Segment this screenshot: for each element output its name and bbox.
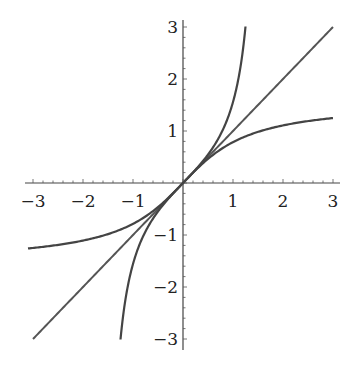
y-tick-label: −2 bbox=[153, 277, 178, 297]
x-tick-label: −2 bbox=[70, 191, 95, 211]
y-tick-label: −1 bbox=[153, 225, 178, 245]
x-tick-label: −3 bbox=[20, 191, 45, 211]
x-tick-label: −1 bbox=[120, 191, 145, 211]
y-tick-label: 3 bbox=[167, 17, 178, 37]
x-tick-label: 2 bbox=[278, 191, 289, 211]
y-tick-label: 2 bbox=[167, 69, 178, 89]
function-plot: −3 −2 −1 1 2 3 3 2 1 −1 −2 −3 bbox=[0, 0, 357, 373]
y-tick-label: −3 bbox=[153, 329, 178, 349]
x-tick-label: 3 bbox=[328, 191, 339, 211]
y-tick-label: 1 bbox=[167, 121, 178, 141]
x-tick-label: 1 bbox=[228, 191, 239, 211]
